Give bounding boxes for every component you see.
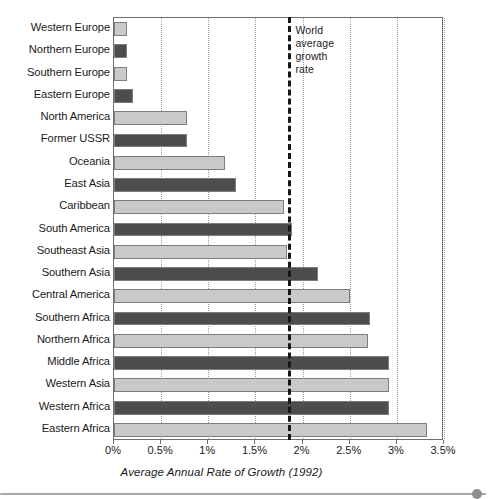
bar-row [114,89,442,103]
bar-former-ussr[interactable] [114,134,187,148]
bar-row [114,200,442,214]
world-average-annotation-label: Worldaveragegrowthrate [295,24,334,76]
chart-figure: Western EuropeNorthern EuropeSouthern Eu… [0,0,494,499]
y-label-northern-africa: Northern Africa [0,333,110,345]
bar-row [114,378,442,392]
bar-row [114,156,442,170]
y-label-western-asia: Western Asia [0,377,110,389]
bar-row [114,312,442,326]
bar-row [114,334,442,348]
y-label-former-ussr: Former USSR [0,132,110,144]
plot-area: Worldaveragegrowthrate [113,17,443,440]
bar-north-america[interactable] [114,111,187,125]
bar-eastern-europe[interactable] [114,89,133,103]
bar-southern-asia[interactable] [114,267,318,281]
y-label-east-asia: East Asia [0,177,110,189]
bar-row [114,356,442,370]
bar-series [114,18,442,439]
bar-western-africa[interactable] [114,401,389,415]
bar-row [114,245,442,259]
x-tick-label-0pct: 0% [105,444,121,456]
bar-southern-europe[interactable] [114,67,127,81]
x-tick-label-3pct: 3% [388,444,404,456]
x-tick-label-0-5pct: 0.5% [148,444,173,456]
annotation-line: World [295,24,334,37]
annotation-line: average [295,37,334,50]
y-label-southern-asia: Southern Asia [0,266,110,278]
bar-central-america[interactable] [114,289,350,303]
bar-row [114,178,442,192]
y-label-eastern-europe: Eastern Europe [0,88,110,100]
y-label-caribbean: Caribbean [0,199,110,211]
bar-east-asia[interactable] [114,178,236,192]
y-label-south-america: South America [0,222,110,234]
bar-caribbean[interactable] [114,200,284,214]
bar-row [114,401,442,415]
footer-rule-line [0,493,486,495]
bar-western-europe[interactable] [114,22,127,36]
x-tick-label-1pct: 1% [199,444,215,456]
y-label-southern-europe: Southern Europe [0,66,110,78]
y-label-eastern-africa: Eastern Africa [0,422,110,434]
annotation-line: rate [295,63,334,76]
y-label-northern-europe: Northern Europe [0,43,110,55]
bar-northern-africa[interactable] [114,334,368,348]
bar-row [114,22,442,36]
bar-south-america[interactable] [114,223,292,237]
y-label-north-america: North America [0,110,110,122]
y-label-western-europe: Western Europe [0,21,110,33]
x-axis-ticks: 0%0.5%1%1.5%2%2.5%3%3.5% [113,440,443,458]
bar-western-asia[interactable] [114,378,389,392]
bar-middle-africa[interactable] [114,356,389,370]
bar-row [114,67,442,81]
bar-northern-europe[interactable] [114,44,127,58]
bar-row [114,223,442,237]
bar-eastern-africa[interactable] [114,423,427,437]
bar-row [114,134,442,148]
x-tick-label-2pct: 2% [294,444,310,456]
bar-row [114,267,442,281]
x-tick-label-2-5pct: 2.5% [336,444,361,456]
gridline-3.5 [444,18,445,439]
footer-decoration [0,489,494,499]
y-axis-category-labels: Western EuropeNorthern EuropeSouthern Eu… [0,17,110,440]
y-label-southeast-asia: Southeast Asia [0,244,110,256]
bar-southeast-asia[interactable] [114,245,287,259]
x-tick-label-1-5pct: 1.5% [242,444,267,456]
x-tick-label-3-5pct: 3.5% [430,444,455,456]
world-average-line [288,17,291,440]
y-label-middle-africa: Middle Africa [0,355,110,367]
y-label-oceania: Oceania [0,155,110,167]
footer-dot-icon [472,489,482,499]
bar-row [114,44,442,58]
y-label-southern-africa: Southern Africa [0,311,110,323]
bar-row [114,289,442,303]
x-axis-title: Average Annual Rate of Growth (1992) [0,466,443,478]
bar-oceania[interactable] [114,156,225,170]
y-label-central-america: Central America [0,288,110,300]
y-label-western-africa: Western Africa [0,400,110,412]
bar-row [114,111,442,125]
annotation-line: growth [295,50,334,63]
bar-row [114,423,442,437]
bar-southern-africa[interactable] [114,312,370,326]
